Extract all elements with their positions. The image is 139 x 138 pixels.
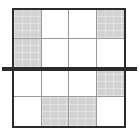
grid-cell-row-2-col-4: [97, 39, 125, 68]
grid-cell-row-1-col-3: [69, 10, 97, 39]
grid-cell-row-2-col-3: [69, 39, 97, 68]
grid-cell-row-1-col-1: [14, 10, 42, 39]
grid-cell-row-1-col-2: [42, 10, 70, 39]
grid-cell-row-4-col-2: [42, 97, 70, 126]
grid-cell-row-3-col-2: [42, 68, 70, 97]
grid-cell-row-3-col-3: [69, 68, 97, 97]
grid-cell-row-2-col-2: [42, 39, 70, 68]
grid-cell-row-4-col-3: [69, 97, 97, 126]
shaded-fraction-grid-figure: [0, 0, 139, 138]
grid-cell-row-4-col-4: [97, 97, 125, 126]
horizontal-cut-line: [2, 67, 137, 71]
grid-cell-row-2-col-1: [14, 39, 42, 68]
grid-cell-row-3-col-1: [14, 68, 42, 97]
grid-cell-row-1-col-4: [97, 10, 125, 39]
grid-cell-row-3-col-4: [97, 68, 125, 97]
grid-cell-row-4-col-1: [14, 97, 42, 126]
